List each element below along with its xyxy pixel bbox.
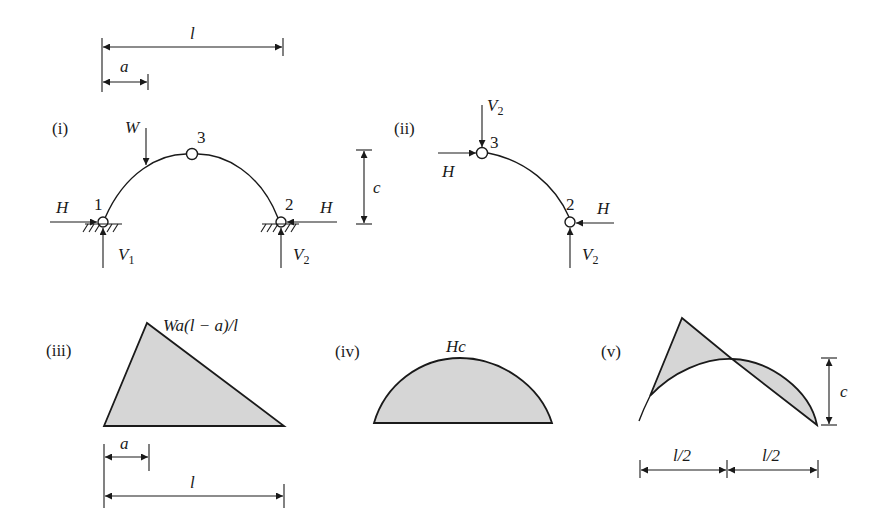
panel-v: (v) c l/2 l/2 <box>601 318 848 478</box>
peak-moment-label: Wa(l − a)/l <box>163 316 238 335</box>
thrust-label-top: H <box>441 162 456 181</box>
node-3-label: 3 <box>197 128 206 147</box>
node-2-label: 2 <box>285 195 294 214</box>
load-position-dimension: a <box>103 57 148 90</box>
node-3-label: 3 <box>490 133 499 152</box>
shear-label-top: V2 <box>487 96 503 118</box>
reactant-moment-label: Hc <box>445 337 466 356</box>
rise-dimension: c <box>356 150 381 224</box>
panel-v-label: (v) <box>601 342 621 361</box>
node-1-label: 1 <box>94 195 103 214</box>
arch-curve-tail <box>639 396 650 421</box>
dim-l-label: l <box>190 473 195 492</box>
load-label: W <box>125 118 141 137</box>
reactant-moment-shape <box>374 358 552 423</box>
dim-left-half-label: l/2 <box>673 446 691 465</box>
half-arch-curve <box>488 153 569 217</box>
span-label: l <box>190 24 195 43</box>
rise-label: c <box>373 178 381 197</box>
dim-a-label: a <box>120 434 129 453</box>
panel-iv-label: (iv) <box>335 342 360 361</box>
net-moment-region-right <box>732 359 817 425</box>
thrust-label-bottom: H <box>596 199 611 218</box>
panel-iii-label: (iii) <box>46 341 72 360</box>
arch-curve <box>105 154 278 218</box>
thrust-label-right: H <box>319 198 334 217</box>
reaction-label-v2: V2 <box>293 245 309 267</box>
hinge-node-2 <box>565 217 575 227</box>
load-position-label: a <box>120 57 129 76</box>
panel-ii-label: (ii) <box>394 119 415 138</box>
panel-iii: (iii) Wa(l − a)/l a l <box>46 316 284 508</box>
panel-iv: (iv) Hc <box>335 337 552 423</box>
hinge-node-3 <box>477 148 488 159</box>
thrust-label-left: H <box>55 198 70 217</box>
reaction-label-v1: V1 <box>118 245 134 267</box>
three-hinged-arch-figure: l a (i) 1 3 2 <box>0 0 890 526</box>
panel-i-label: (i) <box>52 119 68 138</box>
net-moment-region-left <box>650 318 732 396</box>
reaction-label-bottom: V2 <box>582 245 598 267</box>
node-2-label: 2 <box>566 195 575 214</box>
dim-right-half-label: l/2 <box>762 446 780 465</box>
free-moment-triangle <box>104 323 284 426</box>
rise-label: c <box>840 382 848 401</box>
panel-i: (i) 1 3 2 W H <box>50 118 381 268</box>
hinge-node-3 <box>187 149 198 160</box>
panel-ii: (ii) 3 2 V2 H H V2 <box>394 96 614 268</box>
